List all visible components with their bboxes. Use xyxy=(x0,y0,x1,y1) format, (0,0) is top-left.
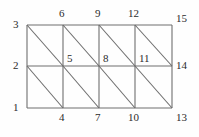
mesh-diagram: 321691215581114471013 xyxy=(0,0,199,137)
node-label-interior-node-3: 8 xyxy=(103,53,109,64)
node-label-bottom-node-3: 7 xyxy=(95,112,101,123)
mesh-diagonal-r0-c0 xyxy=(27,25,63,66)
node-label-right-mid: 14 xyxy=(176,60,187,71)
mesh-diagonal-r1-c2 xyxy=(99,66,135,108)
node-label-bottom-right-corner: 13 xyxy=(176,112,187,123)
node-label-top-node-3: 9 xyxy=(95,8,101,19)
node-label-top-node-2: 6 xyxy=(59,8,65,19)
mesh-diagonal-r1-c3 xyxy=(135,66,172,108)
node-label-interior-node-2: 5 xyxy=(67,53,73,64)
node-label-left-mid: 2 xyxy=(13,60,19,71)
mesh-diagonal-r1-c0 xyxy=(27,66,63,108)
node-label-left-top-corner: 3 xyxy=(13,19,19,30)
mesh-diagonal-r1-c1 xyxy=(63,66,99,108)
node-label-top-node-4: 12 xyxy=(128,8,139,19)
node-label-left-bottom-corner: 1 xyxy=(13,102,19,113)
node-label-interior-node-4: 11 xyxy=(139,53,150,64)
node-label-bottom-node-2: 4 xyxy=(59,112,65,123)
node-label-bottom-node-4: 10 xyxy=(128,112,139,123)
node-label-top-right-corner: 15 xyxy=(176,13,187,24)
